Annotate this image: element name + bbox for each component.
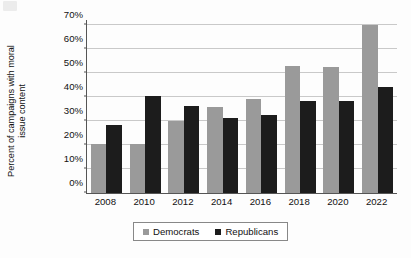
bar [261,115,277,193]
bar-group [281,20,320,193]
bar [323,67,339,193]
x-axis-tick-label: 2018 [280,196,319,212]
bar-group [242,20,281,193]
y-axis-tick-label: 20% [64,128,83,139]
x-axis-tick-label: 2020 [319,196,358,212]
chart-figure: Percent of campaigns with moral issue co… [0,0,411,258]
x-axis-tick-label: 2010 [125,196,164,212]
y-axis-tick-label: 30% [64,104,83,115]
bar [300,101,316,194]
bar [91,144,107,193]
bar [339,101,355,193]
y-axis-tick-label: 40% [64,80,83,91]
legend-label: Republicans [225,226,278,237]
legend-item: Democrats [143,226,199,237]
bar [130,144,146,193]
y-axis-tick-label: 50% [64,56,83,67]
legend-swatch-icon [143,229,149,235]
bar [246,99,262,193]
bar [378,87,394,193]
legend-swatch-icon [215,229,221,235]
legend-label: Democrats [153,226,199,237]
bar [285,66,301,193]
bar [106,125,122,193]
bar [362,25,378,193]
bar [223,118,239,193]
legend-item: Republicans [215,226,278,237]
chart-legend: DemocratsRepublicans [133,222,288,241]
y-axis-tick-label: 60% [64,32,83,43]
bar-group [320,20,359,193]
bar-group [203,20,242,193]
y-axis-tick-label: 0% [69,177,83,188]
x-axis-tick-label: 2014 [202,196,241,212]
x-axis-ticks: 20082010201220142016201820202022 [86,196,396,212]
x-axis-tick-label: 2022 [357,196,396,212]
bar [168,121,184,193]
bar-groups [87,20,397,193]
bar-group [165,20,204,193]
plot-area: 0%10%20%30%40%50%60%70% [86,20,397,194]
y-axis-title-line-2: issue content [17,84,28,138]
bar [184,106,200,193]
y-axis-tick-label: 70% [64,8,83,19]
bar [145,96,161,193]
bar-group [358,20,397,193]
bar-group [87,20,126,193]
bar [207,107,223,194]
y-axis-title: Percent of campaigns with moral issue co… [2,21,32,201]
scan-artifact [3,1,17,11]
y-axis-title-line-1: Percent of campaigns with moral [6,45,17,177]
bar-group [126,20,165,193]
x-axis-tick-label: 2008 [86,196,125,212]
x-axis-tick-label: 2012 [164,196,203,212]
x-axis-tick-label: 2016 [241,196,280,212]
y-axis-tick-label: 10% [64,152,83,163]
